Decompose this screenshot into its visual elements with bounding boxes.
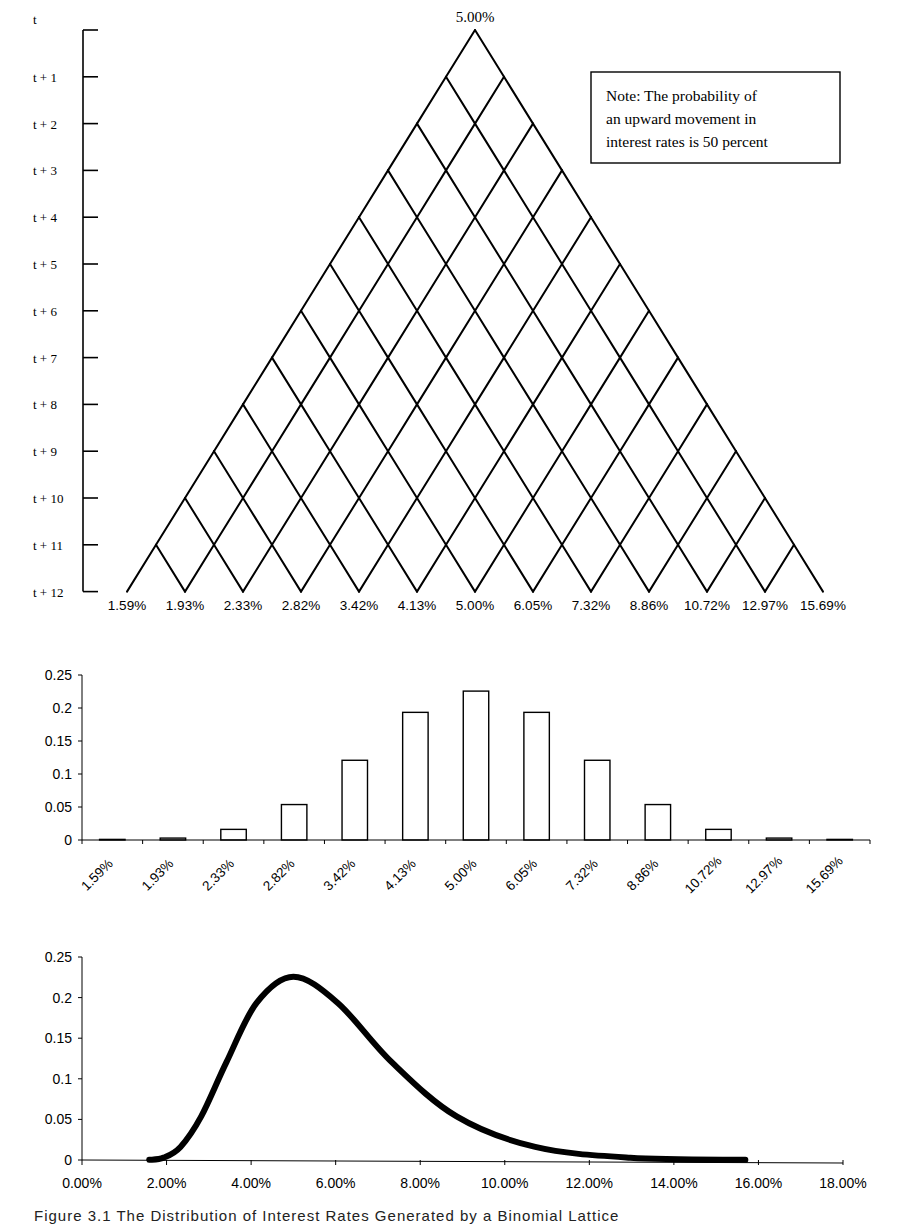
note-line-3: interest rates is 50 percent	[606, 133, 769, 150]
figure-caption: Figure 3.1 The Distribution of Interest …	[34, 1207, 619, 1224]
bar	[585, 760, 610, 840]
time-label: t + 11	[33, 538, 63, 553]
bar-y-tick-labels: 00.050.10.150.20.25	[45, 667, 72, 848]
line-x-tick-label: 0.00%	[62, 1175, 102, 1191]
binomial-lattice: tt + 1t + 2t + 3t + 4t + 5t + 6t + 7t + …	[0, 0, 903, 640]
time-label: t + 3	[33, 163, 57, 178]
bar-x-tick-label: 7.32%	[563, 856, 601, 894]
time-axis-labels: tt + 1t + 2t + 3t + 4t + 5t + 6t + 7t + …	[33, 12, 63, 600]
bar-y-tick-label: 0.2	[53, 700, 73, 716]
time-label: t + 1	[33, 70, 57, 85]
time-label: t + 5	[33, 257, 57, 272]
bar-x-tick-label: 10.72%	[682, 853, 725, 896]
bar-x-tick-label: 2.82%	[260, 856, 298, 894]
line-x-tick-label: 12.00%	[566, 1175, 613, 1191]
bar-x-tick-label: 8.86%	[624, 856, 662, 894]
note-box: Note: The probability of an upward movem…	[591, 72, 840, 163]
bar	[706, 829, 731, 840]
bar-y-tick-label: 0.05	[45, 799, 72, 815]
terminal-rate-label: 2.82%	[282, 598, 320, 613]
bar	[100, 839, 125, 840]
line-y-tick-label: 0.2	[53, 990, 73, 1006]
bar	[160, 838, 185, 840]
time-label: t + 9	[33, 444, 57, 459]
bar-x-tick-labels: 1.59%1.93%2.33%2.82%3.42%4.13%5.00%6.05%…	[78, 853, 846, 896]
terminal-rate-label: 5.00%	[456, 598, 494, 613]
terminal-rate-label: 7.32%	[572, 598, 610, 613]
time-label: t + 8	[33, 397, 57, 412]
time-label: t + 12	[33, 585, 63, 600]
bar-x-tick-label: 4.13%	[381, 856, 419, 894]
bar-x-tick-label: 12.97%	[742, 853, 785, 896]
bar	[827, 839, 852, 840]
note-line-1: Note: The probability of	[606, 87, 758, 104]
terminal-rate-label: 1.59%	[108, 598, 146, 613]
line-y-tick-label: 0.05	[45, 1111, 72, 1127]
bar-y-tick-label: 0.1	[53, 766, 73, 782]
bar	[403, 712, 428, 840]
line-x-axis	[82, 1160, 843, 1165]
time-label: t + 2	[33, 117, 57, 132]
bar-y-tick-label: 0.15	[45, 733, 72, 749]
line-x-tick-label: 14.00%	[650, 1175, 697, 1191]
time-axis	[83, 30, 98, 592]
line-x-tick-label: 8.00%	[400, 1175, 440, 1191]
time-label: t + 6	[33, 304, 57, 319]
line-x-tick-label: 4.00%	[231, 1175, 271, 1191]
terminal-rate-label: 12.97%	[742, 598, 788, 613]
bar-y-tick-label: 0	[64, 832, 72, 848]
terminal-rate-labels: 1.59%1.93%2.33%2.82%3.42%4.13%5.00%6.05%…	[108, 598, 846, 613]
bar-x-tick-label: 6.05%	[502, 856, 540, 894]
bar	[463, 691, 488, 840]
time-label: t + 10	[33, 491, 63, 506]
terminal-rate-label: 4.13%	[398, 598, 436, 613]
bar-x-tick-label: 2.33%	[199, 856, 237, 894]
line-x-tick-label: 6.00%	[316, 1175, 356, 1191]
terminal-rate-label: 3.42%	[340, 598, 378, 613]
note-line-2: an upward movement in	[606, 110, 756, 127]
line-y-tick-label: 0.15	[45, 1030, 72, 1046]
bar-x-tick-label: 15.69%	[803, 853, 846, 896]
bar-x-tick-label: 3.42%	[321, 856, 359, 894]
bar	[766, 838, 791, 840]
time-label: t + 4	[33, 210, 57, 225]
line-y-tick-label: 0.25	[45, 949, 72, 965]
time-label: t + 7	[33, 351, 57, 366]
line-x-tick-labels: 0.00%2.00%4.00%6.00%8.00%10.00%12.00%14.…	[62, 1175, 867, 1191]
line-x-tick-label: 10.00%	[481, 1175, 528, 1191]
line-x-tick-label: 2.00%	[147, 1175, 187, 1191]
line-x-tick-label: 16.00%	[735, 1175, 782, 1191]
bar-y-tick-label: 0.25	[45, 667, 72, 683]
bar	[342, 760, 367, 840]
bar	[221, 829, 246, 840]
bar-x-tick-label: 1.59%	[78, 856, 116, 894]
bar-series	[100, 691, 853, 840]
density-curve	[149, 977, 745, 1160]
bar-x-tick-label: 5.00%	[442, 856, 480, 894]
bar	[281, 805, 306, 840]
line-x-tick-label: 18.00%	[819, 1175, 866, 1191]
bar	[645, 805, 670, 840]
time-label: t	[33, 12, 37, 27]
terminal-rate-label: 8.86%	[630, 598, 668, 613]
terminal-rate-label: 10.72%	[684, 598, 730, 613]
lattice-root-rate: 5.00%	[456, 9, 495, 25]
bar	[524, 712, 549, 840]
bar-y-axis	[78, 675, 82, 840]
line-y-tick-label: 0	[64, 1152, 72, 1168]
line-y-axis	[78, 957, 82, 1160]
terminal-rate-label: 15.69%	[800, 598, 846, 613]
line-y-tick-labels: 00.050.10.150.20.25	[45, 949, 72, 1168]
bar-x-axis	[82, 840, 870, 844]
bar-x-tick-label: 1.93%	[139, 856, 177, 894]
terminal-rate-label: 2.33%	[224, 598, 262, 613]
terminal-rate-label: 6.05%	[514, 598, 552, 613]
line-y-tick-label: 0.1	[53, 1071, 73, 1087]
terminal-rate-label: 1.93%	[166, 598, 204, 613]
